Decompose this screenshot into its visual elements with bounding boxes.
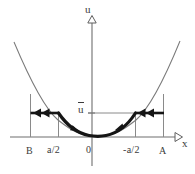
potential-energy-diagram: u x u B a/2 0 -a/2 A bbox=[0, 0, 195, 174]
tick-label-A: A bbox=[159, 146, 167, 156]
thick-active-curve bbox=[59, 113, 136, 136]
level-ubar-text: u bbox=[78, 104, 84, 115]
thin-parabola-curve bbox=[14, 41, 180, 136]
tick-label-neg-a-half: -a/2 bbox=[123, 145, 140, 155]
arrow-right-outer-icon bbox=[146, 109, 154, 118]
y-axis-label: u bbox=[85, 4, 91, 15]
tick-label-B: B bbox=[26, 146, 33, 156]
arrow-left-outer-icon bbox=[33, 109, 41, 118]
y-axis-arrow-icon bbox=[88, 16, 96, 24]
tick-label-a-half: a/2 bbox=[47, 145, 60, 155]
x-axis-label: x bbox=[182, 138, 188, 149]
arrow-left-inner-icon bbox=[42, 109, 50, 118]
origin-label: 0 bbox=[86, 145, 91, 155]
arrow-right-inner-icon bbox=[138, 109, 146, 118]
level-ubar-label: u bbox=[78, 104, 84, 115]
